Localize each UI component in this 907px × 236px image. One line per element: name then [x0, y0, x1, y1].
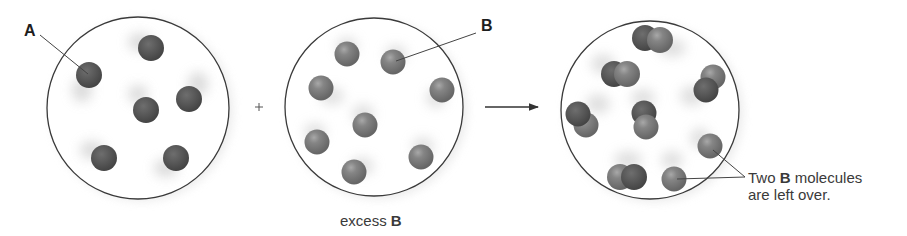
container-reactant-a [40, 17, 233, 201]
caption-text: excess [340, 212, 391, 229]
molecule-pair-ab [632, 101, 659, 140]
annotation-line-1: Two B molecules [748, 169, 862, 186]
caption-bold-b: B [391, 212, 402, 229]
molecule-pair-ab [601, 61, 640, 87]
label-a: A [24, 22, 36, 40]
plus-icon [255, 103, 263, 111]
annotation-line-2: are left over. [748, 186, 862, 203]
molecule-pair-ab [607, 164, 647, 190]
caption-excess-b: excess B [340, 212, 402, 229]
label-b: B [481, 17, 493, 35]
annotation-leftover: Two B molecules are left over. [748, 169, 862, 203]
container-product [561, 21, 745, 202]
container-reactant-b [285, 18, 476, 199]
molecule-pair-ab [632, 25, 673, 53]
